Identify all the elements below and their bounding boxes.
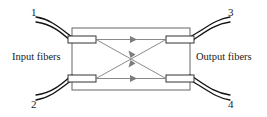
- arrow-right-bottom: [130, 75, 137, 82]
- port-1-label: 1: [31, 7, 37, 18]
- port-3-label: 3: [228, 7, 234, 18]
- stub-top-left: [68, 36, 96, 43]
- fiber-lead-1: [36, 17, 72, 42]
- fiber-lead-2: [36, 75, 72, 100]
- stub-top-right: [166, 36, 194, 43]
- port-4-label: 4: [228, 99, 234, 110]
- ray-straight-bottom: [96, 75, 166, 82]
- port-2-label: 2: [31, 99, 37, 110]
- ray-straight-top: [96, 36, 166, 43]
- output-fibers-label: Output fibers: [196, 52, 252, 63]
- fiber-lead-4: [190, 75, 230, 100]
- arrow-right-top: [130, 36, 137, 43]
- input-fibers-label: Input fibers: [12, 52, 61, 63]
- stub-bottom-left: [68, 75, 96, 82]
- stub-bottom-right: [166, 75, 194, 82]
- fiber-lead-3: [190, 17, 230, 42]
- fiber-coupler-figure: 1 2 3 4 Input fibers Output fibers: [0, 0, 267, 117]
